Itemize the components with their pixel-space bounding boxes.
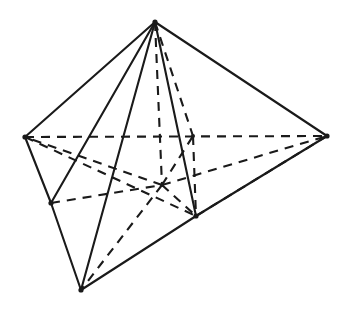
edge-center-to-right xyxy=(162,136,327,185)
vertex-back-base xyxy=(191,134,195,138)
pyramid-diagram xyxy=(0,0,352,335)
edge-bottomright-to-right xyxy=(196,136,327,216)
edge-center-to-bottom xyxy=(81,185,162,290)
vertex-right-base xyxy=(324,133,329,138)
edge-center-to-left xyxy=(25,137,162,185)
vertex-bottom-base xyxy=(78,287,83,292)
edge-apex-to-midleft xyxy=(51,22,155,203)
edge-midleft-to-bottom xyxy=(51,203,81,290)
edge-left-to-right-diagonal xyxy=(25,136,327,137)
hidden-edge-group xyxy=(25,22,327,290)
visible-edge-group xyxy=(25,22,327,290)
edge-apex-to-right xyxy=(155,22,327,136)
vertex-mid-left-base xyxy=(48,200,53,205)
vertex-apex xyxy=(152,19,157,24)
vertex-base-center xyxy=(160,183,164,187)
edge-apex-to-back xyxy=(155,22,193,136)
vertex-left-base xyxy=(22,134,27,139)
edge-apex-to-left xyxy=(25,22,155,137)
vertex-bottom-right-base xyxy=(193,213,198,218)
figure-canvas xyxy=(0,0,352,335)
